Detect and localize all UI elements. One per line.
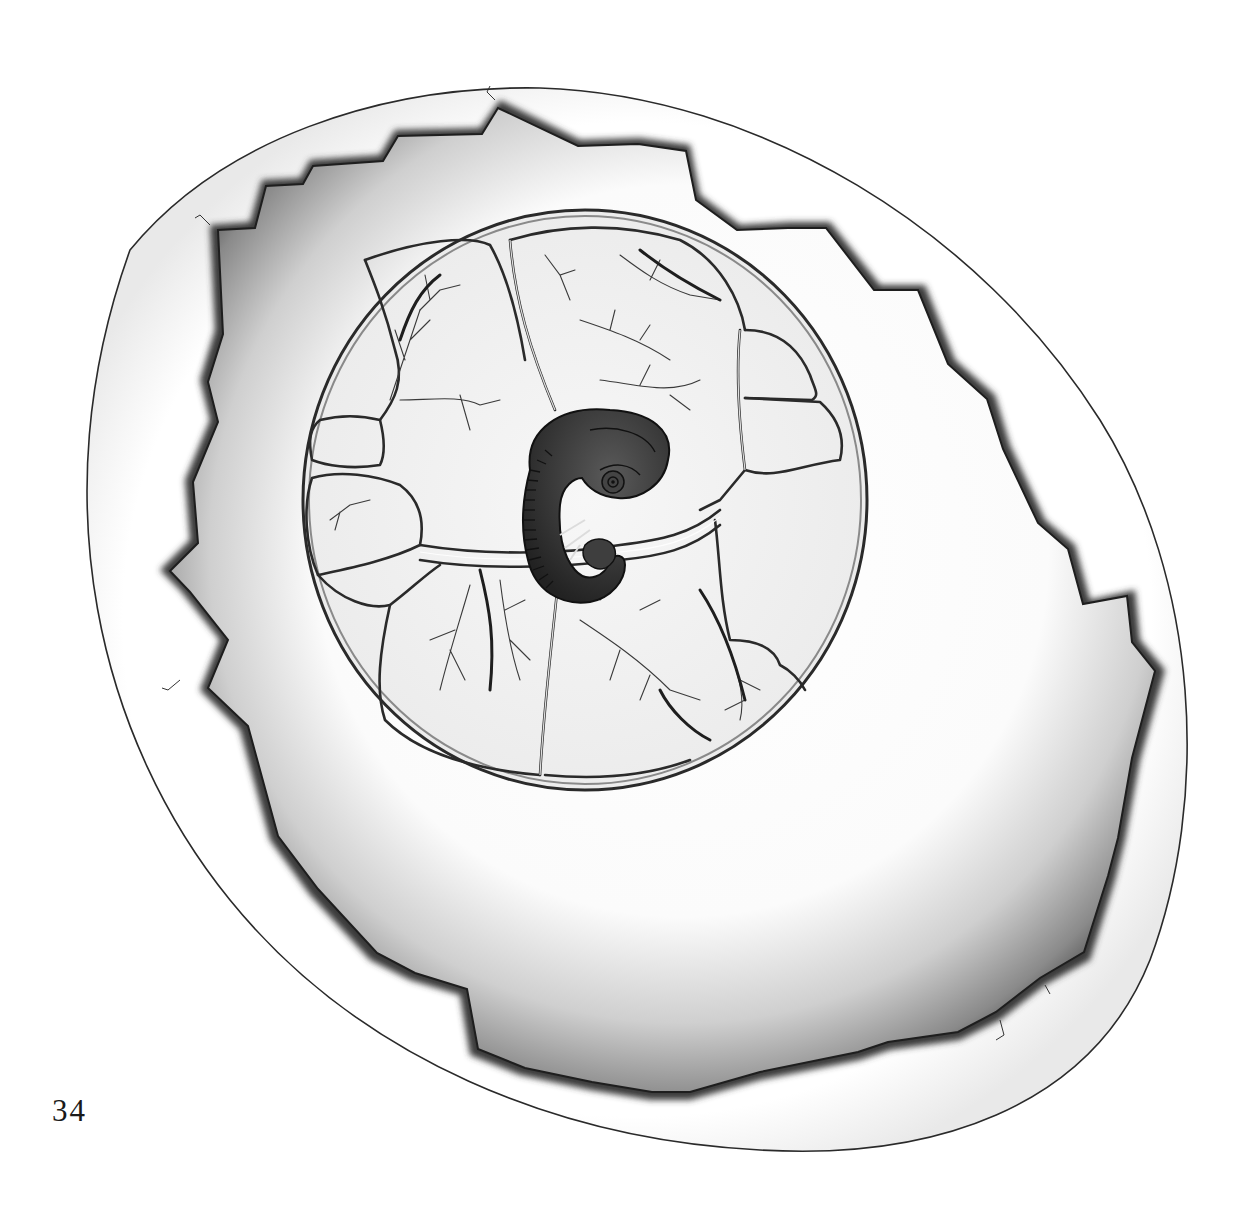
vessel-disc <box>303 210 867 790</box>
embryo-eye-dot <box>611 480 615 484</box>
area-vasculosa <box>303 210 867 790</box>
page-number: 34 <box>52 1093 87 1129</box>
egg-embryo-illustration <box>0 0 1255 1229</box>
embryo-heart <box>583 539 615 569</box>
